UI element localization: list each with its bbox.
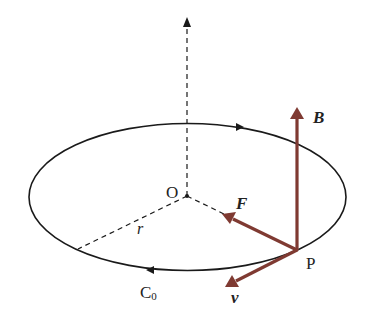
vector-v-arrow xyxy=(225,250,297,287)
orbit-direction-arrow-bottom-icon xyxy=(146,266,154,274)
center-label: O xyxy=(166,184,178,201)
vector-b-label: B xyxy=(313,109,324,126)
circular-motion-diagram xyxy=(0,0,371,327)
center-point xyxy=(185,194,189,198)
orbit-label-main: C xyxy=(140,283,151,302)
vertical-axis xyxy=(183,17,191,196)
vector-f-arrow xyxy=(222,212,297,250)
vector-b-arrow xyxy=(290,107,304,250)
radius-label: r xyxy=(137,221,143,237)
point-p xyxy=(296,249,299,252)
radius-line xyxy=(78,196,187,249)
vector-v-label: v xyxy=(231,289,239,306)
center-to-p-dashed-line xyxy=(187,196,224,214)
orbit-direction-arrow-top-icon xyxy=(236,123,244,131)
orbit-label: C0 xyxy=(140,284,157,302)
point-p-label: P xyxy=(306,255,315,272)
vector-f-label: F xyxy=(236,195,247,212)
axis-arrow-icon xyxy=(183,17,191,27)
orbit-label-subscript: 0 xyxy=(151,290,157,302)
